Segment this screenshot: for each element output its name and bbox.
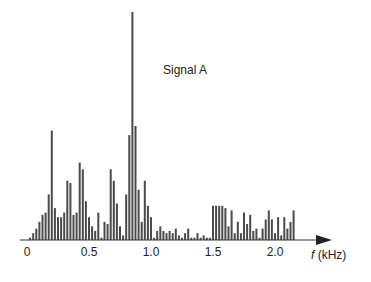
- spectrum-bar: [147, 206, 149, 240]
- spectrum-bar: [172, 233, 174, 240]
- x-tick-label: 1.5: [205, 245, 222, 259]
- spectrum-bar: [135, 126, 137, 240]
- spectrum-bar: [234, 233, 236, 240]
- spectrum-bar: [91, 226, 93, 240]
- spectrum-bar: [144, 181, 146, 240]
- chart-title: Signal A: [163, 63, 207, 77]
- spectrum-bar: [277, 217, 279, 240]
- spectrum-bar: [218, 206, 220, 240]
- spectrum-bar: [283, 217, 285, 240]
- x-axis-label: f (kHz): [311, 248, 346, 262]
- spectrum-chart: 00.51.01.52.0 Signal A f (kHz): [0, 0, 371, 282]
- spectrum-bar: [122, 235, 124, 240]
- spectrum-bar: [262, 229, 264, 240]
- spectrum-bar: [175, 229, 177, 240]
- x-axis-ticks: 00.51.01.52.0: [24, 245, 284, 259]
- spectrum-bar: [215, 206, 217, 240]
- spectrum-bar: [94, 231, 96, 240]
- spectrum-bar: [45, 213, 47, 240]
- spectrum-bar: [57, 217, 59, 240]
- spectrum-bar: [48, 194, 50, 240]
- spectrum-bar: [150, 217, 152, 240]
- spectrum-bar: [255, 229, 257, 240]
- spectrum-bar: [85, 201, 87, 240]
- x-axis-label-unit: (kHz): [314, 248, 346, 262]
- spectrum-bar: [169, 231, 171, 240]
- spectrum-bar: [138, 190, 140, 240]
- x-axis-arrow-icon: [316, 235, 332, 245]
- spectrum-bar: [69, 183, 71, 240]
- spectrum-bar: [293, 210, 295, 240]
- spectrum-bar: [237, 222, 239, 240]
- spectrum-bar: [156, 231, 158, 240]
- spectrum-bar: [221, 206, 223, 240]
- spectrum-bar: [224, 208, 226, 240]
- x-tick-label: 0: [24, 245, 31, 259]
- spectrum-bar: [97, 213, 99, 240]
- spectrum-bar: [243, 213, 245, 240]
- spectrum-bar: [54, 208, 56, 240]
- spectrum-bar: [231, 210, 233, 240]
- spectrum-bar: [51, 131, 53, 240]
- spectrum-bars: [29, 12, 295, 240]
- spectrum-bar: [110, 169, 112, 240]
- spectrum-bar: [249, 215, 251, 240]
- spectrum-bar: [228, 226, 230, 240]
- spectrum-bar: [286, 229, 288, 240]
- spectrum-bar: [184, 233, 186, 240]
- spectrum-bar: [38, 222, 40, 240]
- spectrum-bar: [76, 213, 78, 240]
- spectrum-bar: [265, 220, 267, 241]
- spectrum-bar: [212, 206, 214, 240]
- spectrum-bar: [35, 229, 37, 240]
- spectrum-bar: [271, 220, 273, 241]
- spectrum-bar: [32, 233, 34, 240]
- spectrum-bar: [268, 210, 270, 240]
- spectrum-bar: [187, 229, 189, 240]
- spectrum-bar: [82, 169, 84, 240]
- spectrum-bar: [116, 204, 118, 241]
- spectrum-bar: [113, 181, 115, 240]
- spectrum-bar: [203, 235, 205, 240]
- spectrum-bar: [162, 231, 164, 240]
- spectrum-bar: [274, 233, 276, 240]
- spectrum-bar: [166, 233, 168, 240]
- spectrum-bar: [66, 181, 68, 240]
- spectrum-bar: [125, 194, 127, 240]
- spectrum-bar: [141, 222, 143, 240]
- spectrum-bar: [159, 226, 161, 240]
- spectrum-bar: [197, 233, 199, 240]
- spectrum-bar: [104, 222, 106, 240]
- spectrum-bar: [128, 135, 130, 240]
- spectrum-bar: [88, 217, 90, 240]
- spectrum-bar: [252, 231, 254, 240]
- spectrum-bar: [63, 213, 65, 240]
- spectrum-bar: [107, 224, 109, 240]
- spectrum-bar: [79, 163, 81, 241]
- spectrum-bar: [119, 226, 121, 240]
- x-tick-label: 1.0: [143, 245, 160, 259]
- x-tick-label: 2.0: [267, 245, 284, 259]
- spectrum-bar: [290, 222, 292, 240]
- spectrum-bar: [240, 233, 242, 240]
- spectrum-bar: [246, 224, 248, 240]
- spectrum-bar: [178, 235, 180, 240]
- spectrum-bar: [42, 215, 44, 240]
- x-tick-label: 0.5: [81, 245, 98, 259]
- spectrum-bar: [60, 217, 62, 240]
- spectrum-bar: [131, 12, 133, 240]
- spectrum-bar: [280, 235, 282, 240]
- spectrum-bar: [73, 215, 75, 240]
